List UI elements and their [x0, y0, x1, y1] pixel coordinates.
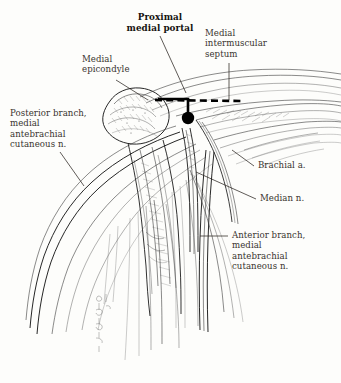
figure-background [0, 0, 341, 383]
anatomical-illustration [0, 0, 341, 383]
portal-entry-point-dot [182, 112, 194, 124]
